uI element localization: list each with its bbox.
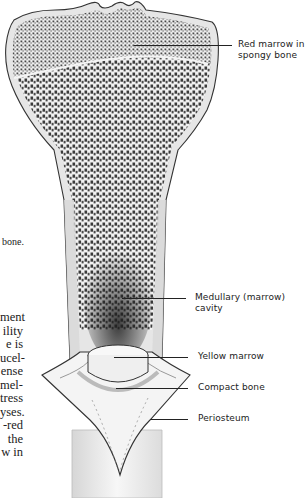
label-yellow-marrow: Yellow marrow — [198, 351, 264, 362]
leader-yellow-marrow — [114, 357, 188, 358]
text-line: -red — [0, 419, 23, 433]
label-medullary-line1: Medullary (marrow) — [195, 292, 285, 303]
bone-illustration — [0, 0, 306, 498]
text-line: ment — [0, 311, 23, 325]
text-line: yses. — [0, 406, 23, 420]
label-medullary-line2: cavity — [195, 303, 285, 314]
label-red-marrow-line1: Red marrow in — [238, 39, 305, 50]
leader-medullary — [122, 298, 186, 299]
text-line: the — [0, 433, 23, 447]
leader-compact-bone — [116, 388, 188, 389]
label-periosteum: Periosteum — [198, 413, 250, 424]
text-line: w in — [0, 446, 23, 460]
label-red-marrow: Red marrow in spongy bone — [238, 39, 305, 61]
leader-periosteum — [150, 419, 188, 420]
body-text-fragment: ment ility e is ucel- ense mel- tress ys… — [0, 311, 23, 460]
text-line: tress — [0, 392, 23, 406]
leader-red-marrow — [134, 45, 232, 46]
text-line: ense — [0, 365, 23, 379]
text-line: e is — [0, 338, 23, 352]
label-compact-bone: Compact bone — [198, 382, 265, 393]
label-red-marrow-line2: spongy bone — [238, 50, 305, 61]
text-line: ility — [0, 325, 23, 339]
label-medullary-cavity: Medullary (marrow) cavity — [195, 292, 285, 314]
caption-fragment: bone. — [0, 235, 24, 249]
text-line: ucel- — [0, 352, 23, 366]
text-line: mel- — [0, 379, 23, 393]
